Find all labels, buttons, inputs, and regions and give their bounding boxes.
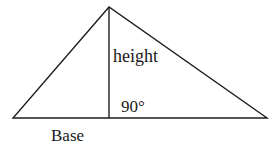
base-label: Base (51, 126, 84, 145)
triangle-diagram: height 90° Base (0, 0, 278, 147)
height-label: height (113, 46, 158, 66)
right-angle-label: 90° (121, 97, 145, 116)
